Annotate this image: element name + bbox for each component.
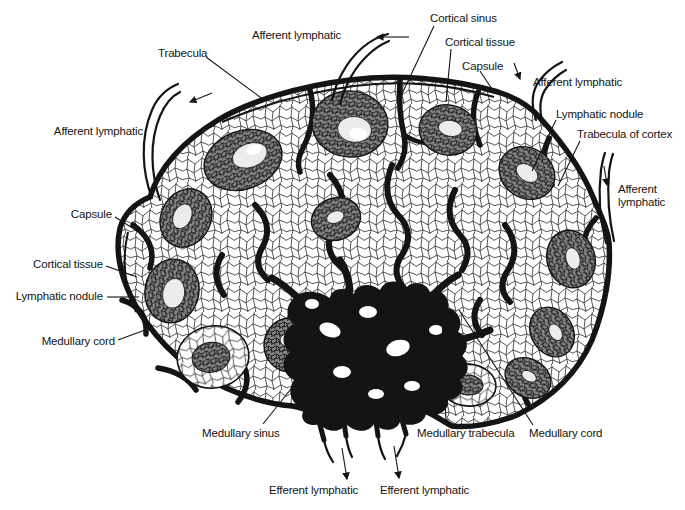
label-efferent-lymphatic-right: Efferent lymphatic xyxy=(380,484,469,497)
label-capsule-top: Capsule xyxy=(462,60,503,73)
label-efferent-lymphatic-left: Efferent lymphatic xyxy=(269,484,358,497)
label-lymphatic-nodule-left: Lymphatic nodule xyxy=(16,290,103,303)
label-cortical-tissue-left: Cortical tissue xyxy=(33,258,103,271)
label-trabecula-of-cortex: Trabecula of cortex xyxy=(577,128,672,141)
label-medullary-sinus: Medullary sinus xyxy=(202,427,280,440)
label-medullary-cord-right: Medullary cord xyxy=(529,427,602,440)
label-cortical-sinus: Cortical sinus xyxy=(430,12,497,25)
label-afferent-lymphatic-upper-right: Afferent lymphatic xyxy=(533,76,622,89)
label-afferent-lymphatic-left: Afferent lymphatic xyxy=(54,125,143,138)
label-afferent-lymphatic-far-right: Afferent lymphatic xyxy=(618,183,676,209)
label-trabecula: Trabecula xyxy=(158,47,207,60)
label-capsule-left: Capsule xyxy=(71,208,112,221)
lymph-node-figure: Trabecula Afferent lymphatic Cortical si… xyxy=(0,0,685,510)
label-afferent-lymphatic-top: Afferent lymphatic xyxy=(252,29,341,42)
label-lymphatic-nodule-right: Lymphatic nodule xyxy=(556,108,643,121)
label-medullary-cord-left: Medullary cord xyxy=(42,335,115,348)
label-medullary-trabecula: Medullary trabecula xyxy=(417,427,515,440)
label-cortical-tissue-top: Cortical tissue xyxy=(445,36,515,49)
